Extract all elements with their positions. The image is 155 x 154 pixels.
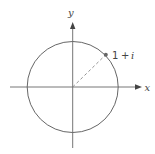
point-label-plus: + [121,50,129,61]
complex-plane-diagram: y x 1 + i [0,0,155,154]
diagram-svg: y x 1 + i [0,0,155,154]
y-axis-arrow-icon [70,22,75,29]
x-axis-arrow-icon [135,84,142,89]
x-axis-label: x [145,82,151,93]
point-1-plus-i [104,53,108,57]
y-axis-label: y [67,7,74,18]
point-label-real: 1 [112,50,118,61]
radius-dashed-line [73,55,106,87]
point-label-imag: i [131,50,134,61]
